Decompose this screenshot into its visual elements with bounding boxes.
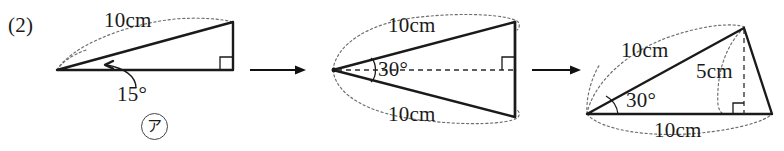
figure-3-altitude-label: 5cm <box>696 61 733 82</box>
figure-3-base-label: 10cm <box>654 120 701 141</box>
figure-1-right-angle-mark <box>220 57 233 70</box>
figure-1-hypotenuse-label: 10cm <box>104 10 151 31</box>
figure-3-right-angle-mark <box>733 103 744 114</box>
figure-3-left-construction-arc <box>587 64 600 114</box>
exercise-marker-circled: ア <box>141 113 168 140</box>
transform-arrow-1-group <box>250 65 306 74</box>
figure-2-upper-side-label: 10cm <box>388 15 435 36</box>
exercise-number: (2) <box>8 15 33 36</box>
transform-arrow-2-group <box>532 65 581 74</box>
figure-2-angle-label: 30° <box>378 59 408 80</box>
figure-2-right-angle-mark <box>502 57 515 70</box>
transform-arrow-1-head <box>295 65 306 74</box>
figure-3-slant-side-label: 10cm <box>621 40 668 61</box>
worksheet-figure-panel: (2) ア 10cm 15° 10cm 10cm 30° 10cm 5cm 10… <box>0 0 784 151</box>
figure-2-lower-side-label: 10cm <box>388 104 435 125</box>
transform-arrow-2-head <box>570 65 581 74</box>
figure-2-apex-vertex <box>332 68 337 73</box>
figure-1-angle-label: 15° <box>117 84 147 105</box>
figure-3-angle-label: 30° <box>626 90 656 111</box>
